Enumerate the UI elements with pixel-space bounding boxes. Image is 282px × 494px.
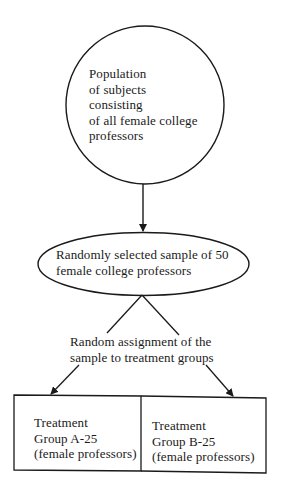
group-b-label: Treatment Group B-25 (female professors)	[152, 418, 255, 465]
population-label: Population of subjects consisting of all…	[89, 66, 198, 144]
group-b-line: Group B-25	[152, 434, 255, 450]
group-a-line: Treatment	[34, 415, 137, 431]
assignment-line: sample to treatment groups	[70, 350, 214, 366]
population-line: of subjects	[89, 82, 198, 98]
group-a-line: Group A-25	[34, 431, 137, 447]
population-line: professors	[89, 128, 198, 144]
sample-label: Randomly selected sample of 50 female co…	[56, 247, 229, 278]
assignment-label: Random assignment of the sample to treat…	[70, 334, 214, 365]
branch-line-right	[142, 295, 179, 335]
branch-line-left	[107, 295, 142, 333]
sample-line: female college professors	[56, 263, 229, 279]
group-a-line: (female professors)	[34, 446, 137, 462]
population-line: Population	[89, 66, 198, 82]
group-a-label: Treatment Group A-25 (female professors)	[34, 415, 137, 462]
population-line: of all female college	[89, 113, 198, 129]
arrow-to-group-a	[51, 365, 79, 394]
assignment-line: Random assignment of the	[70, 334, 214, 350]
group-b-line: (female professors)	[152, 449, 255, 465]
sample-line: Randomly selected sample of 50	[56, 247, 229, 263]
group-b-line: Treatment	[152, 418, 255, 434]
population-line: consisting	[89, 97, 198, 113]
arrow-to-group-b	[206, 365, 233, 396]
